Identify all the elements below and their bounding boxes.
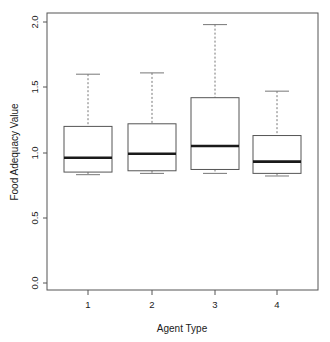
x-tick-label-0: 1 (85, 299, 90, 310)
box-iqr (64, 126, 112, 172)
box-series (64, 25, 301, 176)
box-iqr (253, 136, 301, 174)
box-group (191, 25, 239, 174)
y-tick-label-1: 0.5 (29, 211, 40, 224)
y-tick-label-0: 0.0 (29, 276, 40, 289)
box-group (128, 73, 176, 173)
y-axis: 2.0 1.5 1.0 0.5 0.0 (29, 15, 47, 289)
boxplot-figure: 2.0 1.5 1.0 0.5 0.0 Food Adequacy Value … (0, 0, 330, 342)
boxplot-svg: 2.0 1.5 1.0 0.5 0.0 Food Adequacy Value … (0, 0, 330, 342)
x-tick-label-1: 2 (149, 299, 154, 310)
x-tick-label-3: 4 (274, 299, 279, 310)
box-iqr (128, 124, 176, 171)
box-group (253, 91, 301, 176)
y-tick-label-4: 2.0 (29, 15, 40, 28)
box-iqr (191, 98, 239, 170)
box-group (64, 74, 112, 174)
y-axis-title: Food Adequacy Value (9, 103, 20, 201)
x-axis: 1 2 3 4 (85, 290, 279, 310)
y-tick-label-2: 1.0 (29, 146, 40, 159)
y-tick-label-3: 1.5 (29, 80, 40, 93)
x-axis-title: Agent Type (157, 323, 208, 334)
x-tick-label-2: 3 (212, 299, 217, 310)
